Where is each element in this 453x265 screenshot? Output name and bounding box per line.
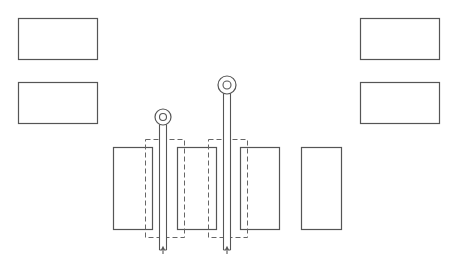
bottom-plate-1 [114, 148, 153, 230]
probes [155, 76, 236, 254]
electrode-diagram [0, 0, 453, 265]
probe-ring-hole [160, 114, 167, 121]
probe-1 [155, 109, 171, 254]
top-right-box-2 [361, 83, 440, 124]
probe-ring-hole [223, 81, 231, 89]
top-right-box-1 [361, 19, 440, 60]
top-left-box-1 [19, 19, 98, 60]
bottom-plate-4 [302, 148, 342, 230]
top-left-box-2 [19, 83, 98, 124]
bottom-plate-3 [241, 148, 280, 230]
bottom-plate-2 [178, 148, 217, 230]
probe-2 [218, 76, 236, 254]
